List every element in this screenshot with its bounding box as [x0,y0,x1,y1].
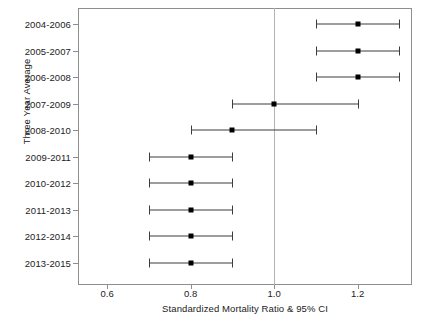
data-point-marker [188,234,193,239]
y-axis-tick-mark [73,210,78,211]
confidence-interval-cap [399,46,400,55]
confidence-interval-cap [399,20,400,29]
confidence-interval-cap [316,46,317,55]
confidence-interval-cap [316,126,317,135]
data-point-marker [355,48,360,53]
y-axis-tick-mark [73,130,78,131]
confidence-interval-cap [316,73,317,82]
confidence-interval-line [232,103,357,104]
y-axis-tick-label: 2009-2011 [25,151,71,162]
y-axis-tick-label: 2013-2015 [25,257,71,268]
data-point-marker [188,260,193,265]
confidence-interval-cap [149,152,150,161]
confidence-interval-cap [316,20,317,29]
y-axis-tick-mark [73,157,78,158]
y-axis-tick-mark [73,24,78,25]
confidence-interval-line [191,130,316,131]
x-axis-tick-label: 1.2 [338,288,378,299]
y-axis-tick-label: 2006-2008 [25,72,71,83]
y-axis-tick-label: 2004-2006 [25,19,71,30]
y-axis-tick-label: 2012-2014 [25,231,71,242]
y-axis-tick-mark [73,77,78,78]
y-axis-tick-label: 2011-2013 [25,204,71,215]
x-axis-tick-label: 0.6 [87,288,127,299]
data-point-marker [188,207,193,212]
y-axis-tick-mark [73,51,78,52]
y-axis-tick-label: 2007-2009 [25,98,71,109]
confidence-interval-cap [232,99,233,108]
x-axis-tick-label: 0.8 [171,288,211,299]
x-axis-tick-label: 1.0 [254,288,294,299]
y-axis-tick-mark [73,236,78,237]
y-axis-tick-label: 2010-2012 [25,178,71,189]
confidence-interval-cap [149,232,150,241]
y-axis-tick-mark [73,263,78,264]
confidence-interval-cap [149,258,150,267]
x-axis-title: Standardized Mortality Ratio & 95% CI [78,303,412,314]
confidence-interval-cap [149,205,150,214]
data-point-marker [188,181,193,186]
confidence-interval-cap [232,232,233,241]
confidence-interval-cap [232,258,233,267]
data-point-marker [272,101,277,106]
confidence-interval-cap [191,126,192,135]
confidence-interval-cap [358,99,359,108]
confidence-interval-cap [399,73,400,82]
y-axis-tick-mark [73,183,78,184]
data-point-marker [188,154,193,159]
confidence-interval-cap [149,179,150,188]
y-axis-tick-label: 2008-2010 [25,125,71,136]
y-axis-tick-label: 2005-2007 [25,45,71,56]
data-point-marker [355,75,360,80]
confidence-interval-cap [232,205,233,214]
forest-plot-chart: Three Year Average 2004-20062005-2007200… [0,0,440,322]
confidence-interval-cap [232,179,233,188]
reference-line [274,8,275,285]
data-point-marker [230,128,235,133]
y-axis-tick-mark [73,104,78,105]
confidence-interval-cap [232,152,233,161]
data-point-marker [355,22,360,27]
